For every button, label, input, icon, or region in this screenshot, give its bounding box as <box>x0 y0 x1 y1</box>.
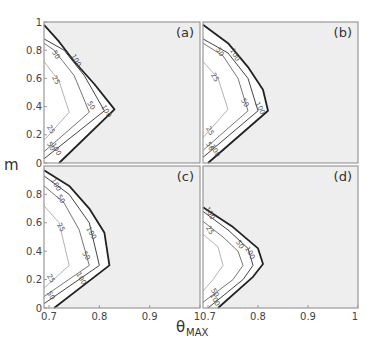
x-axis-label-main: θ <box>176 318 185 336</box>
x-tick-label: 0.8 <box>250 311 266 322</box>
x-tick-label: 0.7 <box>200 311 216 322</box>
panel-label: (b) <box>334 25 352 40</box>
x-tick-label: 0.9 <box>300 311 316 322</box>
panel-c: 1005025100502510050(c)00.20.40.60.80.70.… <box>26 166 200 322</box>
panel-label: (d) <box>334 169 352 184</box>
x-tick-label: 0.9 <box>142 311 158 322</box>
panel-d: 100255010050100(d)0.70.80.91 <box>200 166 358 322</box>
panel-b: 5010025501002550100(b) <box>203 22 358 163</box>
y-tick-label: 0.2 <box>26 274 42 285</box>
contour-figure: 5010025501002550100(a)00.20.40.60.815010… <box>0 0 374 347</box>
y-tick-label: 0.6 <box>26 73 42 84</box>
y-tick-label: 1 <box>36 17 42 28</box>
y-axis-label: m <box>4 156 19 174</box>
y-tick-label: 0.8 <box>26 189 42 200</box>
panel-a: 5010025501002550100(a)00.20.40.60.81 <box>26 17 200 169</box>
panel-label: (a) <box>176 25 194 40</box>
x-tick-label: 0.8 <box>91 311 107 322</box>
panels-group: 5010025501002550100(a)00.20.40.60.815010… <box>26 17 358 323</box>
x-tick-label: 1 <box>352 311 358 322</box>
y-tick-label: 0.4 <box>26 101 42 112</box>
y-tick-label: 0.4 <box>26 246 42 257</box>
y-tick-label: 0.8 <box>26 45 42 56</box>
x-tick-label: 0.7 <box>41 311 57 322</box>
y-tick-label: 0.6 <box>26 217 42 228</box>
y-tick-label: 0 <box>36 158 42 169</box>
panel-label: (c) <box>177 169 194 184</box>
y-tick-label: 0.2 <box>26 129 42 140</box>
x-axis-label-subscript: MAX <box>186 327 208 338</box>
